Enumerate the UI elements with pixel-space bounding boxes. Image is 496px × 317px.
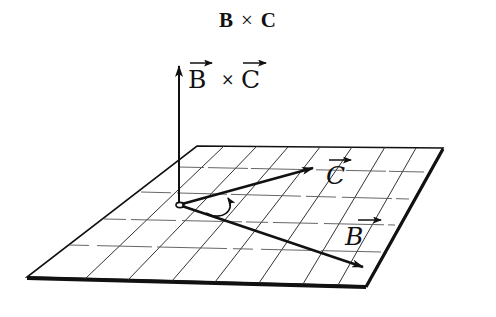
cross-label-times: × [221,70,234,89]
vector-c-label-text: C [326,161,345,190]
vector-b-label-text: B [344,222,363,251]
cross-product-label: B × C [188,63,266,94]
plane [27,146,443,287]
cross-label-b: B [188,65,206,94]
cross-label-c: C [241,65,260,94]
cross-product-diagram: B × C C B [0,0,496,317]
plane-outline [27,146,443,286]
